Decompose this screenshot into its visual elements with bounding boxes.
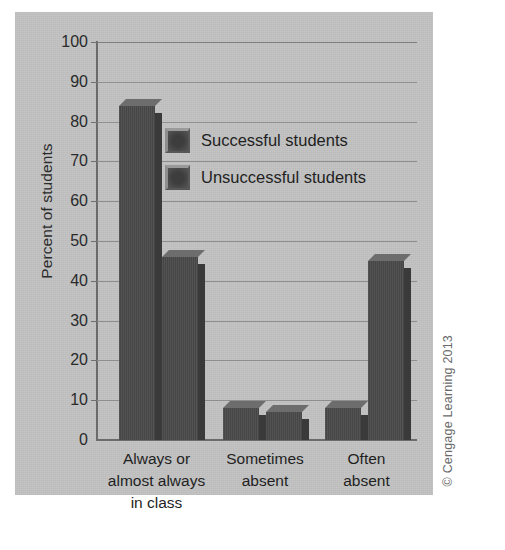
legend-label-successful: Successful students (201, 131, 348, 150)
ytick-label-20: 20 (70, 351, 88, 369)
y-axis-title: Percent of students (38, 111, 56, 311)
ytick-label-40: 40 (70, 272, 88, 290)
ytick-label-80: 80 (70, 113, 88, 131)
legend-label-unsuccessful: Unsuccessful students (201, 168, 366, 187)
category-label-sometimes-line2: absent (215, 470, 315, 492)
legend-item-unsuccessful[interactable]: Unsuccessful students (165, 159, 366, 196)
chart-panel: Percent of students 100 90 80 70 (15, 12, 433, 495)
x-axis-category-labels: Always or almost always in class Sometim… (97, 448, 417, 528)
category-label-often-line1: Often (319, 448, 414, 470)
gridline-0: 0 (97, 440, 417, 441)
ytick-label-60: 60 (70, 192, 88, 210)
legend-swatch-icon-successful (165, 128, 190, 153)
ytick-label-100: 100 (61, 33, 88, 51)
ytick-label-30: 30 (70, 312, 88, 330)
category-label-always-line3: in class (89, 492, 224, 514)
bar-successful-often[interactable] (325, 408, 361, 440)
figure-container: Percent of students 100 90 80 70 (0, 0, 505, 550)
bar-unsuccessful-sometimes[interactable] (266, 412, 302, 440)
category-label-sometimes: Sometimes absent (215, 448, 315, 492)
plot-area: 100 90 80 70 60 50 (97, 42, 417, 440)
category-label-often: Often absent (319, 448, 414, 492)
bar-unsuccessful-always[interactable] (162, 257, 198, 440)
copyright-notice: © Cengage Learning 2013 (441, 335, 455, 486)
legend-swatch-icon-unsuccessful (165, 165, 190, 190)
bar-successful-sometimes[interactable] (223, 408, 259, 440)
category-label-always: Always or almost always in class (89, 448, 224, 514)
ytick-label-90: 90 (70, 73, 88, 91)
legend-item-successful[interactable]: Successful students (165, 122, 366, 159)
category-label-always-line2: almost always (89, 470, 224, 492)
ytick-label-70: 70 (70, 152, 88, 170)
ytick-label-50: 50 (70, 232, 88, 250)
legend: Successful students Unsuccessful student… (165, 122, 366, 196)
bar-successful-always[interactable] (119, 106, 155, 440)
ytick-label-10: 10 (70, 391, 88, 409)
category-label-often-line2: absent (319, 470, 414, 492)
category-label-always-line1: Always or (89, 448, 224, 470)
bar-series-group (97, 42, 417, 440)
bar-unsuccessful-often[interactable] (368, 261, 404, 440)
category-label-sometimes-line1: Sometimes (215, 448, 315, 470)
ytick-label-0: 0 (79, 431, 88, 449)
